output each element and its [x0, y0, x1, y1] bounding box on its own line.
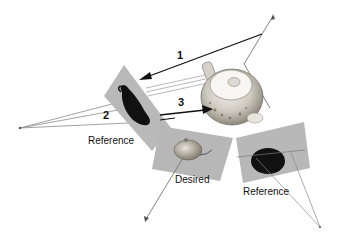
- reference-right-label: Reference: [243, 187, 289, 197]
- arrow-2-label: 2: [103, 110, 109, 121]
- desired-camera-tip: [144, 216, 149, 222]
- desired-label: Desired: [175, 175, 209, 185]
- arrow-3: [160, 105, 213, 115]
- arrow-3-label: 3: [178, 97, 184, 108]
- diagram-canvas: 1 2 3 Reference Desired Reference: [0, 0, 339, 237]
- left-camera-center: [19, 127, 21, 129]
- reference-left-label: Reference: [88, 136, 134, 146]
- top-right-camera-tip: [271, 14, 275, 20]
- arrow-1-label: 1: [177, 50, 183, 61]
- teapot-silhouette-right: [251, 148, 285, 174]
- right-camera-center: [319, 226, 321, 228]
- teapot: [201, 61, 263, 125]
